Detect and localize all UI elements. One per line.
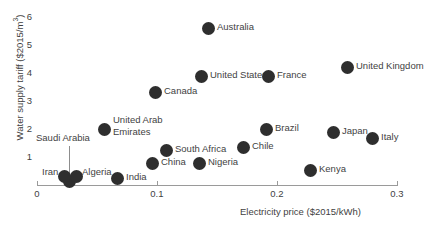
y-axis-title: Water supply tariff ($2015/m3) bbox=[14, 3, 25, 153]
x-tick-mark-2 bbox=[277, 181, 278, 186]
data-label-canada: Canada bbox=[164, 86, 197, 97]
data-point-united-states[interactable] bbox=[195, 70, 208, 83]
saudi-arabia-leader-line bbox=[69, 146, 70, 174]
data-point-china[interactable] bbox=[146, 157, 159, 170]
data-point-nigeria[interactable] bbox=[193, 157, 206, 170]
data-point-iran[interactable] bbox=[58, 170, 71, 183]
data-point-united-arab-emirates[interactable] bbox=[98, 123, 111, 136]
data-label-saudi-arabia: Saudi Arabia bbox=[36, 133, 90, 144]
x-tick-label-1: 0.1 bbox=[137, 188, 177, 199]
y-axis-title-exponent: 3 bbox=[12, 18, 19, 22]
data-point-united-kingdom[interactable] bbox=[341, 61, 354, 74]
data-label-nigeria: Nigeria bbox=[208, 157, 238, 168]
data-point-brazil[interactable] bbox=[260, 123, 273, 136]
data-point-italy[interactable] bbox=[366, 132, 379, 145]
y-axis-title-end: ) bbox=[14, 15, 25, 18]
x-axis-title: Electricity price ($2015/kWh) bbox=[240, 206, 361, 217]
data-point-south-africa[interactable] bbox=[160, 144, 173, 157]
data-label-india: India bbox=[126, 172, 147, 183]
x-tick-mark-1 bbox=[157, 181, 158, 186]
data-label-france: France bbox=[277, 70, 307, 81]
plot-area: 0 0.1 0.2 0.3 1 2 3 4 5 6 Electricity pr… bbox=[0, 0, 444, 227]
data-point-france[interactable] bbox=[262, 70, 275, 83]
data-label-united-arab-emirates-line2: Emirates bbox=[113, 127, 150, 138]
x-tick-mark-0 bbox=[37, 181, 38, 186]
data-label-japan: Japan bbox=[342, 126, 368, 137]
data-point-australia[interactable] bbox=[202, 22, 215, 35]
data-label-chile: Chile bbox=[252, 141, 274, 152]
x-tick-label-2: 0.2 bbox=[257, 188, 297, 199]
data-label-italy: Italy bbox=[381, 132, 398, 143]
data-point-algeria[interactable] bbox=[70, 170, 83, 183]
y-axis-title-main: Water supply tariff ($2015/m bbox=[14, 22, 25, 141]
x-tick-label-0: 0 bbox=[17, 188, 57, 199]
data-label-iran: Iran bbox=[42, 167, 58, 178]
data-label-united-states: United States bbox=[210, 70, 267, 81]
data-label-united-arab-emirates-line1: United Arab bbox=[113, 115, 163, 126]
data-point-kenya[interactable] bbox=[304, 164, 317, 177]
data-label-kenya: Kenya bbox=[319, 164, 346, 175]
data-label-united-kingdom: United Kingdom bbox=[356, 61, 424, 72]
data-label-australia: Australia bbox=[217, 22, 254, 33]
data-label-algeria: Algeria bbox=[82, 167, 112, 178]
data-label-china: China bbox=[161, 157, 186, 168]
data-label-brazil: Brazil bbox=[275, 123, 299, 134]
data-point-canada[interactable] bbox=[149, 86, 162, 99]
x-tick-label-3: 0.3 bbox=[377, 188, 417, 199]
scatter-chart-figure: 0 0.1 0.2 0.3 1 2 3 4 5 6 Electricity pr… bbox=[0, 0, 444, 227]
data-label-south-africa: South Africa bbox=[175, 144, 226, 155]
y-tick-label-1: 1 bbox=[18, 152, 32, 162]
x-axis-line bbox=[37, 185, 397, 186]
data-point-chile[interactable] bbox=[237, 141, 250, 154]
data-point-japan[interactable] bbox=[327, 126, 340, 139]
data-point-india[interactable] bbox=[111, 172, 124, 185]
x-tick-mark-3 bbox=[397, 181, 398, 186]
